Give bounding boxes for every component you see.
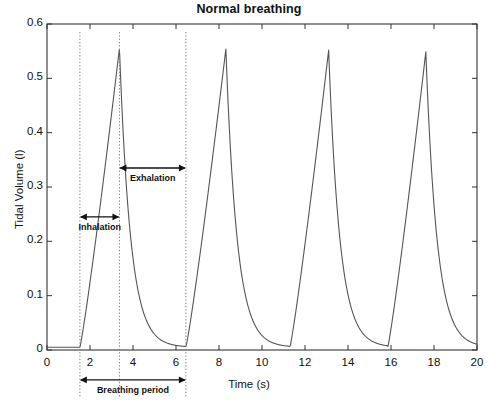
y-tick-label: 0.1 bbox=[3, 288, 43, 300]
x-tick-label: 8 bbox=[205, 356, 233, 368]
x-tick-label: 4 bbox=[119, 356, 147, 368]
x-tick-label: 20 bbox=[463, 356, 491, 368]
x-tick-label: 0 bbox=[33, 356, 61, 368]
annotation-label: Inhalation bbox=[40, 222, 160, 232]
x-tick-label: 18 bbox=[420, 356, 448, 368]
x-tick-label: 12 bbox=[291, 356, 319, 368]
annotation-label: Breathing period bbox=[73, 385, 193, 395]
breathing-chart-figure: Normal breathing Tidal Volume (l) Time (… bbox=[0, 0, 498, 405]
y-tick-label: 0.3 bbox=[3, 179, 43, 191]
x-tick-label: 14 bbox=[334, 356, 362, 368]
plot-canvas bbox=[0, 0, 498, 405]
x-tick-label: 16 bbox=[377, 356, 405, 368]
y-tick-label: 0.2 bbox=[3, 233, 43, 245]
y-tick-label: 0 bbox=[3, 342, 43, 354]
y-tick-label: 0.4 bbox=[3, 125, 43, 137]
annotation-label: Exhalation bbox=[93, 173, 213, 183]
y-tick-label: 0.5 bbox=[3, 70, 43, 82]
x-tick-label: 6 bbox=[162, 356, 190, 368]
y-tick-label: 0.6 bbox=[3, 16, 43, 28]
x-tick-label: 2 bbox=[76, 356, 104, 368]
x-tick-label: 10 bbox=[248, 356, 276, 368]
